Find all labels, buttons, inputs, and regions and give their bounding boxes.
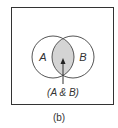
figure-caption: (b)	[0, 112, 118, 123]
set-a-label: A	[38, 51, 46, 63]
venn-diagram: A B (A & B)	[0, 0, 118, 128]
set-b-label: B	[79, 51, 86, 63]
intersection-label: (A & B)	[47, 87, 79, 98]
